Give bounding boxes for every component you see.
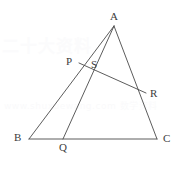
geometry-canvas xyxy=(0,0,185,170)
point-label-A: A xyxy=(110,11,118,22)
line-segment-PR xyxy=(79,63,146,93)
line-side-AB xyxy=(29,26,114,139)
point-label-P: P xyxy=(66,56,72,67)
point-label-C: C xyxy=(163,133,170,144)
geometry-figure: 二十大资料 www.shuxuewang.com 数学资料 A B C P Q … xyxy=(0,0,185,170)
point-label-R: R xyxy=(150,88,157,99)
point-label-S: S xyxy=(91,59,97,70)
point-label-Q: Q xyxy=(59,142,67,153)
line-side-CA xyxy=(114,26,157,139)
point-label-B: B xyxy=(14,132,21,143)
line-cevian-AQ xyxy=(63,26,114,139)
